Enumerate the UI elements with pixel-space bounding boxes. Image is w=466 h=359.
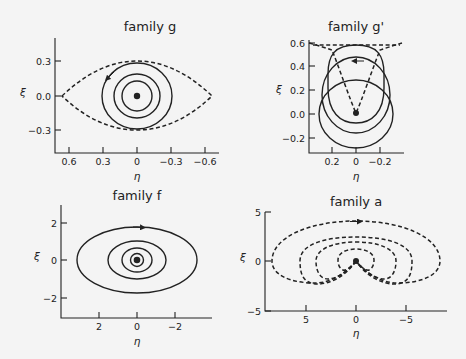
fixed-point-marker xyxy=(134,257,141,264)
x-ticks: 2 0 −2 xyxy=(96,312,182,332)
x-ticks: 0.6 0.3 0 −0.3 −0.6 xyxy=(61,147,216,167)
x-axis-label: η xyxy=(134,170,141,182)
y-tick-label: 0 xyxy=(51,255,57,266)
x-tick-label: 0.2 xyxy=(324,156,339,167)
x-tick-label: −0.3 xyxy=(159,156,182,167)
y-ticks: 0.3 0.0 −0.3 xyxy=(28,56,61,136)
panel-title: family g xyxy=(124,19,177,34)
y-tick-label: −0.2 xyxy=(282,133,305,144)
y-axis-label: ξ xyxy=(33,250,40,262)
panel-family-f: family f 2 0 −2 2 0 −2 η ξ xyxy=(33,188,212,347)
y-tick-label: 0.3 xyxy=(36,56,51,67)
x-tick-label: 0 xyxy=(134,321,140,332)
x-tick-label: 2 xyxy=(96,321,102,332)
y-tick-label: −0.3 xyxy=(28,125,51,136)
y-axis-label: ξ xyxy=(19,86,26,98)
x-tick-label: 0 xyxy=(353,156,359,167)
x-tick-label: 0 xyxy=(134,156,140,167)
x-tick-label: 5 xyxy=(303,314,309,325)
y-tick-label: 0.2 xyxy=(290,85,305,96)
y-tick-label: 0.4 xyxy=(290,61,305,72)
cusp-marker xyxy=(353,258,359,264)
x-tick-label: 0.3 xyxy=(95,156,110,167)
figure: family g 0.3 0.0 −0.3 0.6 0.3 0 −0.3 −0.… xyxy=(0,0,466,359)
x-tick-label: −0.6 xyxy=(193,156,216,167)
panel-title: family a xyxy=(330,194,382,209)
direction-arrow-icon xyxy=(133,227,143,228)
y-ticks: 0.6 0.4 0.2 0.0 −0.2 xyxy=(282,38,315,144)
x-axis-label: η xyxy=(353,327,360,339)
x-tick-label: 0 xyxy=(353,314,359,325)
x-tick-label: −2 xyxy=(168,321,182,332)
plot-curves xyxy=(77,227,197,293)
direction-arrow-icon xyxy=(107,72,114,79)
y-tick-label: 5 xyxy=(255,207,261,218)
panel-title: family f xyxy=(113,188,162,203)
y-tick-label: 0.0 xyxy=(290,109,305,120)
y-ticks: 2 0 −2 xyxy=(43,218,67,304)
plot-curves xyxy=(272,221,440,284)
y-tick-label: −5 xyxy=(247,306,261,317)
y-axis-label: ξ xyxy=(239,251,246,263)
y-tick-label: 0.0 xyxy=(36,91,51,102)
y-ticks: 5 0 −5 xyxy=(247,207,271,317)
panel-family-a: family a 5 0 −5 5 0 −5 η ξ xyxy=(239,194,447,339)
fixed-point-marker xyxy=(134,93,140,99)
x-tick-label: 0.6 xyxy=(61,156,76,167)
fixed-point-marker xyxy=(353,110,359,116)
plot-curves xyxy=(309,43,402,148)
x-tick-label: −0.2 xyxy=(368,156,391,167)
y-tick-label: −2 xyxy=(43,293,57,304)
panel-title: family g' xyxy=(328,19,384,34)
plot-curves xyxy=(62,61,212,130)
y-axis-label: ξ xyxy=(275,83,282,95)
y-tick-label: 0 xyxy=(255,256,261,267)
x-tick-label: −5 xyxy=(399,314,413,325)
panel-family-g-prime: family g' 0.6 0.4 0.2 0.0 −0.2 0.2 0 −0.… xyxy=(275,19,404,182)
y-tick-label: 2 xyxy=(51,218,57,229)
x-ticks: 0.2 0 −0.2 xyxy=(324,147,391,167)
x-ticks: 5 0 −5 xyxy=(303,305,413,325)
y-tick-label: 0.6 xyxy=(290,38,305,49)
x-axis-label: η xyxy=(134,335,141,347)
x-axis-label: η xyxy=(353,170,360,182)
panel-family-g: family g 0.3 0.0 −0.3 0.6 0.3 0 −0.3 −0.… xyxy=(19,19,219,182)
